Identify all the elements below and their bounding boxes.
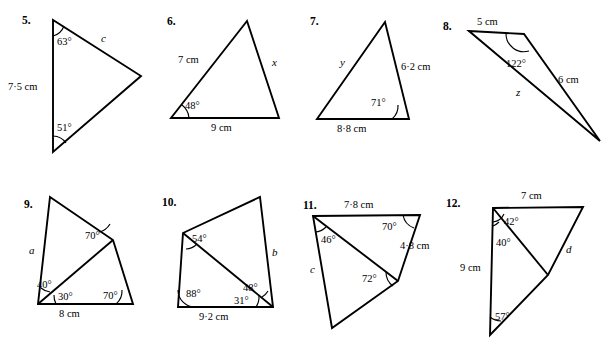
worksheet-page: 5. 63° 51° 7·5 cm c 6. 48° 7 cm 9 cm x 7…	[0, 0, 605, 362]
side-label-7-8cm: 7·8 cm	[344, 199, 373, 210]
side-label-6-2cm: 6·2 cm	[401, 61, 430, 72]
angle-arc-30	[54, 295, 56, 304]
figure-problem-9: 9. 70° 40° 30° 70° 8 cm a	[24, 197, 133, 319]
angle-label-71: 71°	[371, 97, 386, 108]
angle-label-63: 63°	[57, 36, 72, 47]
angle-label-70-right: 70°	[103, 290, 118, 301]
side-label-8cm: 8 cm	[59, 308, 80, 319]
problem-number-5: 5.	[22, 14, 31, 26]
angle-label-40: 40°	[37, 279, 52, 290]
angle-label-54: 54°	[192, 233, 207, 244]
figure-problem-8: 8. 122° 5 cm 6 cm z	[443, 16, 600, 141]
angle-arc-54	[186, 244, 197, 249]
diagonal-line-9	[38, 240, 113, 304]
problem-number-12: 12.	[446, 197, 461, 209]
figure-problem-6: 6. 48° 7 cm 9 cm x	[167, 15, 279, 133]
unknown-label-c: c	[101, 32, 106, 44]
angle-label-88: 88°	[186, 288, 201, 299]
quadrilateral-outline-11	[313, 215, 420, 328]
problem-number-10: 10.	[162, 196, 177, 208]
angle-label-40: 40°	[496, 237, 511, 248]
side-label-9-2cm: 9·2 cm	[199, 311, 228, 322]
problem-number-9: 9.	[24, 198, 33, 210]
unknown-label-x: x	[271, 56, 277, 68]
angle-label-51: 51°	[57, 122, 72, 133]
figure-problem-12: 12. 42° 40° 57° 7 cm 9 cm d	[446, 190, 583, 335]
side-label-6cm: 6 cm	[558, 74, 579, 85]
unknown-label-d: d	[566, 243, 572, 255]
angle-label-48: 48°	[185, 100, 200, 111]
geometry-figures-canvas: 5. 63° 51° 7·5 cm c 6. 48° 7 cm 9 cm x 7…	[0, 0, 605, 362]
angle-arc-31	[256, 296, 259, 307]
figure-problem-7: 7. 71° 6·2 cm 8·8 cm y	[310, 15, 430, 134]
unknown-label-a: a	[29, 244, 35, 256]
side-label-7cm: 7 cm	[178, 54, 199, 65]
unknown-label-z: z	[515, 86, 521, 98]
angle-label-57: 57°	[495, 311, 510, 322]
problem-number-6: 6.	[167, 15, 176, 27]
unknown-label-b: b	[272, 246, 278, 258]
side-label-7-5cm: 7·5 cm	[8, 81, 37, 92]
angle-arc-70	[403, 215, 414, 228]
triangle-outline-8	[469, 31, 600, 141]
unknown-label-y: y	[339, 56, 345, 68]
problem-number-7: 7.	[310, 15, 319, 27]
side-label-9cm: 9 cm	[460, 262, 481, 273]
side-label-8-8cm: 8·8 cm	[337, 123, 366, 134]
quadrilateral-outline-9	[38, 197, 133, 304]
problem-number-8: 8.	[443, 20, 452, 32]
angle-arc-71	[392, 105, 398, 119]
angle-label-48: 48°	[243, 282, 258, 293]
angle-label-30: 30°	[58, 291, 73, 302]
unknown-label-c: c	[310, 263, 315, 275]
figure-problem-5: 5. 63° 51° 7·5 cm c	[8, 14, 141, 152]
angle-arc-46	[315, 227, 326, 232]
angle-label-70-mid: 70°	[85, 230, 100, 241]
angle-label-31: 31°	[234, 295, 249, 306]
angle-label-70: 70°	[382, 221, 397, 232]
angle-arc-48	[262, 291, 268, 297]
side-label-9cm: 9 cm	[211, 122, 232, 133]
side-label-5cm: 5 cm	[477, 16, 498, 27]
angle-arc-63	[53, 26, 64, 36]
side-label-7cm: 7 cm	[521, 190, 542, 201]
triangle-outline-7	[317, 22, 409, 119]
angle-label-46: 46°	[321, 234, 336, 245]
figure-problem-10: 10. 54° 88° 31° 48° 9·2 cm b	[162, 196, 278, 322]
side-label-4-8cm: 4·8 cm	[400, 240, 429, 251]
angle-label-122: 122°	[506, 58, 526, 69]
angle-label-72: 72°	[362, 273, 377, 284]
angle-label-42: 42°	[504, 216, 519, 227]
problem-number-11: 11.	[303, 199, 317, 211]
figure-problem-11: 11. 46° 70° 72° 7·8 cm 4·8 cm c	[303, 199, 429, 328]
angle-arc-40	[493, 222, 499, 226]
